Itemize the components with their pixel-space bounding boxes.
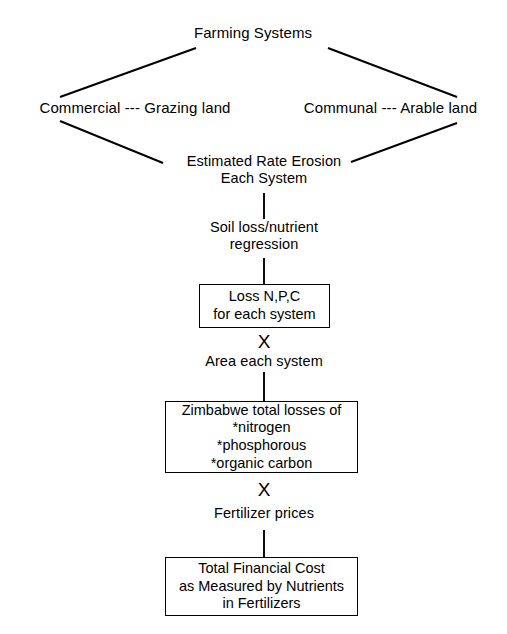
communal-arable-node: Communal --- Arable land (283, 99, 498, 117)
soil-loss-regression-node: Soil loss/nutrient regression (174, 219, 354, 253)
edge-farming-to-commercial (60, 48, 196, 97)
edge-communal-to-erosion (351, 123, 457, 162)
zimbabwe-total-losses-box: Zimbabwe total losses of *nitrogen *phos… (165, 401, 358, 473)
loss-npc-box: Loss N,P,C for each system (199, 284, 330, 328)
fertilizer-prices-node: Fertilizer prices (184, 505, 344, 522)
estimated-rate-erosion-node: Estimated Rate Erosion Each System (164, 153, 364, 187)
total-financial-cost-box: Total Financial Cost as Measured by Nutr… (165, 557, 358, 616)
flowchart-diagram: Farming Systems Commercial --- Grazing l… (0, 0, 507, 634)
multiply-operator-1: X (234, 332, 294, 351)
farming-systems-node: Farming Systems (153, 24, 353, 42)
multiply-operator-2: X (234, 480, 294, 499)
edge-commercial-to-erosion (60, 121, 163, 163)
edge-farming-to-communal (328, 48, 457, 97)
commercial-grazing-node: Commercial --- Grazing land (10, 99, 260, 117)
area-each-system-node: Area each system (184, 353, 344, 370)
